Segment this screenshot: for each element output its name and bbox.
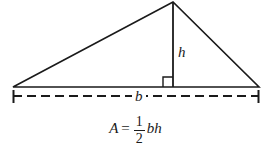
- area-formula: A = 1 2 bh: [0, 113, 271, 144]
- fraction-numerator: 1: [134, 115, 145, 129]
- right-angle-marker: [163, 77, 173, 87]
- formula-equals-sign: =: [121, 121, 129, 136]
- triangle-area-figure: h b A = 1 2 bh: [0, 0, 271, 146]
- fraction-denominator: 2: [134, 132, 145, 146]
- formula-variable-a: A: [109, 121, 118, 136]
- height-label: h: [178, 45, 186, 60]
- formula-bh-term: bh: [147, 121, 162, 136]
- formula-one-half-fraction: 1 2: [134, 115, 145, 146]
- base-label: b: [132, 89, 146, 104]
- area-formula-row: A = 1 2 bh: [109, 113, 162, 144]
- triangle-outline: [13, 2, 259, 87]
